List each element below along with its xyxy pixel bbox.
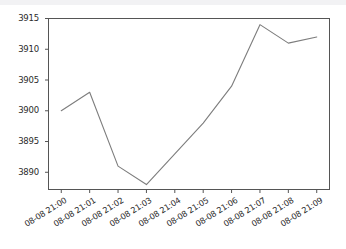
x-tick-marks — [61, 190, 316, 194]
axes-frame — [49, 19, 330, 190]
y-tick-label: 3910 — [5, 44, 39, 54]
y-tick-label: 3890 — [5, 167, 39, 177]
y-tick-marks — [45, 19, 49, 173]
chart-figure: 389038953900390539103915 08-08 21:0008-0… — [0, 0, 346, 249]
y-tick-label: 3900 — [5, 105, 39, 115]
y-tick-label: 3905 — [5, 75, 39, 85]
y-tick-label: 3915 — [5, 13, 39, 23]
y-tick-label: 3895 — [5, 136, 39, 146]
